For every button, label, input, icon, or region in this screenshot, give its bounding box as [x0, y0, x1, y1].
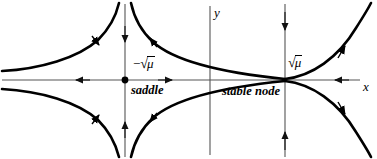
saddle-coordinate-label: −√μ — [133, 56, 155, 71]
saddle-negative-sign: − — [133, 56, 140, 71]
stable-node-type-label: stable node — [222, 85, 280, 98]
stable-node-coordinate-label: √μ — [288, 55, 302, 70]
curve-arrow-upper-mid — [150, 38, 157, 47]
curve-arrow-lower-mid — [150, 113, 157, 122]
saddle-point-marker — [122, 77, 129, 84]
stable-node-radical-argument: μ — [295, 55, 303, 69]
saddle-radical-argument: μ — [147, 56, 155, 70]
trajectory-lower-left-incoming — [2, 89, 119, 157]
axis-lines — [2, 4, 360, 157]
trajectory-upper-left-incoming — [2, 3, 119, 71]
phase-portrait-figure: −√μ saddle √μ stable node y x — [0, 0, 377, 159]
fixed-point-markers — [122, 77, 129, 84]
phase-portrait-canvas — [0, 0, 377, 159]
flow-arrows — [76, 12, 349, 150]
trajectory-node-lower-branch — [285, 81, 371, 157]
saddle-type-label: saddle — [131, 84, 164, 97]
x-axis-label: x — [363, 80, 369, 93]
y-axis-label: y — [214, 6, 220, 19]
